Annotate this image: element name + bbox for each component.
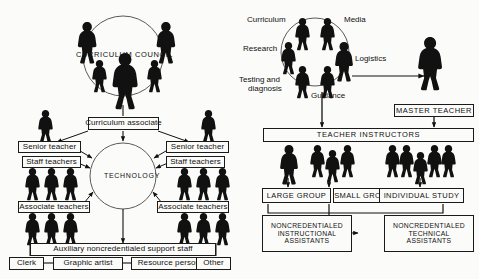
council-figure	[92, 60, 106, 92]
associate-teachers-box-right[interactable]: Associate teachers	[157, 201, 229, 213]
staff-teachers-box-left[interactable]: Staff teachers	[22, 156, 81, 168]
senior-teacher-figure-right	[201, 110, 215, 142]
technology-label: TECHNOLOGY	[104, 172, 160, 179]
curriculum-associate-box[interactable]: Curriculum associate	[88, 117, 159, 130]
service-label-research: Research	[243, 45, 277, 54]
individual-study-figure	[385, 145, 399, 177]
staff-teacher-figure-right	[215, 168, 229, 200]
associate-teacher-figure-left	[25, 213, 39, 245]
large-group-box[interactable]: LARGE GROUP	[262, 188, 331, 203]
support-role-graphic-artist[interactable]: Graphic artist	[53, 257, 123, 270]
individual-study-figure	[427, 145, 441, 177]
staff-teacher-figure-left	[44, 168, 58, 200]
instructional-line3: ASSISTANTS	[285, 237, 330, 245]
curriculum-council-label: CURRICULUM COUNCIL	[76, 50, 173, 59]
small-group-figure	[340, 145, 354, 177]
service-figure-testing	[295, 66, 309, 98]
service-label-curriculum: Curriculum	[247, 16, 286, 25]
associate-teacher-figure-right	[215, 213, 229, 245]
staff-teacher-figure-left	[25, 168, 39, 200]
support-role-clerk[interactable]: Clerk	[9, 257, 44, 270]
associate-teacher-figure-right	[177, 213, 191, 245]
senior-teacher-box-left[interactable]: Senior teacher	[18, 141, 81, 153]
service-label-guidance: Guidance	[311, 92, 345, 101]
service-label-media: Media	[344, 16, 366, 25]
individual-study-figure	[399, 145, 413, 177]
technical-line1: NONCREDENTIALED	[393, 222, 465, 230]
large-group-figure	[280, 145, 298, 184]
individual-study-figure	[441, 145, 455, 177]
associate-teachers-box-left[interactable]: Associate teachers	[18, 201, 90, 213]
support-role-other[interactable]: Other	[196, 257, 231, 270]
associate-teacher-figure-left	[44, 213, 58, 245]
service-figure-logistics	[335, 42, 353, 81]
council-figure	[147, 60, 161, 92]
noncredentialed-technical-assistants-box[interactable]: NONCREDENTIALED TECHNICAL ASSISTANTS	[384, 215, 474, 252]
technical-line2: TECHNICAL	[408, 230, 449, 238]
master-teacher-figure	[418, 37, 442, 90]
senior-teacher-figure-left	[38, 110, 52, 142]
council-lead-figure	[113, 53, 138, 109]
noncredentialed-instructional-assistants-box[interactable]: NONCREDENTIALED INSTRUCTIONAL ASSISTANTS	[262, 215, 352, 252]
senior-teacher-box-right[interactable]: Senior teacher	[166, 141, 229, 153]
diagram-canvas: CURRICULUM COUNCIL TECHNOLOGY Curriculum…	[0, 0, 479, 279]
staff-teacher-figure-left	[63, 168, 77, 200]
associate-teacher-figure-right	[196, 213, 210, 245]
associate-teacher-figure-left	[63, 213, 77, 245]
staff-teacher-figure-right	[177, 168, 191, 200]
staff-teachers-box-right[interactable]: Staff teachers	[166, 156, 225, 168]
master-teacher-box[interactable]: MASTER TEACHER	[394, 104, 474, 117]
small-group-figure	[310, 145, 324, 177]
auxiliary-support-staff-box[interactable]: Auxiliary noncredentialed support staff	[30, 243, 216, 256]
small-group-figure	[325, 150, 339, 182]
service-label-testing-line2: diagnosis	[248, 85, 282, 94]
staff-teacher-figure-right	[196, 168, 210, 200]
individual-study-box[interactable]: INDIVIDUAL STUDY	[379, 188, 464, 203]
service-label-logistics: Logistics	[355, 55, 386, 64]
teacher-instructors-box[interactable]: TEACHER INSTRUCTORS	[263, 128, 474, 142]
instructional-line2: INSTRUCTIONAL	[278, 230, 337, 238]
technical-line3: ASSISTANTS	[407, 237, 452, 245]
instructional-line1: NONCREDENTIALED	[271, 222, 343, 230]
service-figure-research	[281, 42, 295, 74]
